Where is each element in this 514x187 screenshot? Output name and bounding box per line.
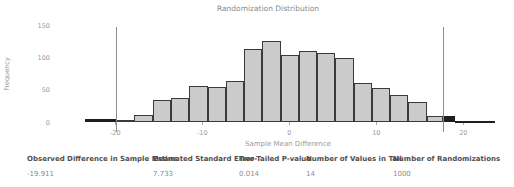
stat-label: Number of Randomizations	[393, 155, 500, 163]
y-tick-label: 0	[0, 119, 50, 127]
x-tick-mark	[202, 122, 203, 125]
stat-values-in-tail: Number of Values in Tail 14	[306, 155, 402, 178]
histogram-bar	[153, 100, 171, 123]
tail-cutoff-line[interactable]	[443, 27, 444, 132]
histogram-bar	[390, 95, 408, 122]
histogram-bar	[427, 116, 444, 122]
stat-value: 1000	[393, 170, 500, 178]
histogram-bar	[317, 53, 335, 123]
x-tick-label: 10	[372, 129, 380, 137]
histogram-bar	[85, 119, 116, 122]
randomization-distribution-panel: Randomization Distribution Frequency Sam…	[0, 0, 514, 187]
histogram-bar	[189, 86, 207, 122]
histogram-bar	[134, 115, 152, 122]
chart-title: Randomization Distribution	[217, 4, 319, 13]
stat-p-value: Two-Tailed P-value 0.014	[239, 155, 311, 178]
histogram-bar	[208, 87, 226, 122]
histogram-bar	[455, 121, 478, 123]
histogram-bar	[443, 116, 455, 122]
histogram-bar	[226, 81, 244, 122]
x-tick-label: 20	[459, 129, 467, 137]
histogram-bar	[244, 49, 262, 123]
y-tick-label: 100	[0, 54, 50, 62]
x-axis-label: Sample Mean Difference	[245, 140, 331, 148]
histogram-bar	[408, 102, 426, 122]
stat-label: Number of Values in Tail	[306, 155, 402, 163]
stat-value: 0.014	[239, 170, 311, 178]
histogram-bar	[354, 83, 372, 122]
y-tick-label: 50	[0, 86, 50, 94]
tail-cutoff-line[interactable]	[116, 27, 117, 132]
stat-label: Two-Tailed P-value	[239, 155, 311, 163]
histogram-bar	[262, 41, 280, 122]
histogram-bar	[299, 51, 317, 122]
histogram-bar	[281, 55, 299, 122]
histogram-bar	[372, 88, 390, 122]
x-tick-mark	[289, 122, 290, 125]
x-tick-label: -10	[197, 129, 208, 137]
x-tick-mark	[376, 122, 377, 125]
histogram-bar	[116, 120, 134, 123]
stat-value: 14	[306, 170, 402, 178]
stat-num-randomizations: Number of Randomizations 1000	[393, 155, 500, 178]
x-tick-label: 0	[287, 129, 291, 137]
y-tick-label: 150	[0, 22, 50, 30]
histogram-bar	[335, 58, 353, 123]
histogram-bar	[171, 98, 189, 123]
histogram-bar	[478, 121, 495, 123]
